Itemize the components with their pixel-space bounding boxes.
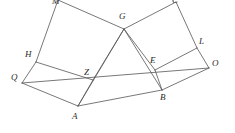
segment-M-H (36, 0, 58, 62)
vertex-label-B: B (160, 93, 166, 102)
segment-G-C (124, 2, 176, 29)
segment-layer (22, 0, 209, 106)
segment-G-B (124, 29, 162, 90)
vertex-label-A: A (72, 112, 78, 121)
vertex-label-Q: Q (11, 73, 18, 82)
vertex-label-L: L (199, 37, 204, 46)
segment-C-L (176, 2, 197, 48)
geometry-canvas (0, 0, 235, 133)
segment-L-O (197, 48, 209, 68)
vertex-label-M: M (52, 0, 60, 6)
vertex-label-O: O (212, 59, 219, 68)
vertex-label-Z: Z (84, 68, 89, 77)
segment-L-E (155, 48, 197, 70)
segment-A-B (78, 90, 162, 106)
vertex-label-G: G (119, 12, 126, 21)
vertex-label-H: H (25, 50, 32, 59)
segment-Q-A (22, 83, 78, 106)
geometry-figure: M C G H L Q O Z E A B (0, 0, 235, 133)
vertex-label-E: E (150, 56, 156, 65)
segment-M-G (58, 0, 124, 29)
vertex-label-C: C (172, 0, 178, 5)
segment-H-Q (22, 62, 36, 83)
